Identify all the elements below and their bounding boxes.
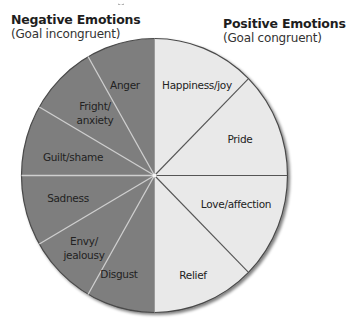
- label-sadness: Sadness: [47, 192, 89, 204]
- negative-emotions-heading: Negative Emotions (Goal incongruent): [11, 13, 141, 41]
- negative-title: Negative Emotions: [11, 13, 141, 27]
- label-guilt: Guilt/shame: [43, 151, 103, 163]
- label-envy-line1: Envy/: [70, 235, 99, 247]
- label-anger: Anger: [110, 79, 141, 91]
- label-love: Love/affection: [201, 198, 271, 210]
- label-disgust: Disgust: [100, 268, 137, 280]
- label-pride: Pride: [227, 133, 252, 145]
- label-fright-line1: Fright/: [79, 100, 111, 112]
- positive-emotions-heading: Positive Emotions (Goal congruent): [223, 17, 346, 45]
- positive-title: Positive Emotions: [223, 17, 346, 31]
- label-relief: Relief: [179, 269, 207, 281]
- positive-subtitle: (Goal congruent): [223, 31, 346, 45]
- label-happiness: Happiness/joy: [162, 79, 232, 91]
- negative-subtitle: (Goal incongruent): [11, 27, 141, 41]
- label-fright-line2: anxiety: [77, 114, 114, 126]
- center-point: [153, 174, 157, 178]
- label-envy-line2: jealousy: [62, 249, 104, 261]
